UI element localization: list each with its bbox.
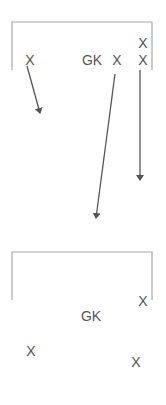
player-marker: X — [138, 36, 147, 50]
player-marker: X — [112, 53, 121, 67]
player-marker: X — [138, 53, 147, 67]
drill-diagram: X GK X X X X GK X X — [0, 0, 166, 405]
movement-arrow — [96, 74, 115, 218]
movement-arrow — [27, 66, 40, 113]
goalkeeper-marker: GK — [82, 53, 102, 67]
goalkeeper-marker: GK — [81, 309, 101, 323]
bottom-goal-outline — [12, 252, 152, 300]
player-marker: X — [26, 344, 35, 358]
player-marker: X — [25, 53, 34, 67]
player-marker: X — [138, 294, 147, 308]
player-marker: X — [131, 355, 140, 369]
movement-arrows — [27, 66, 140, 218]
